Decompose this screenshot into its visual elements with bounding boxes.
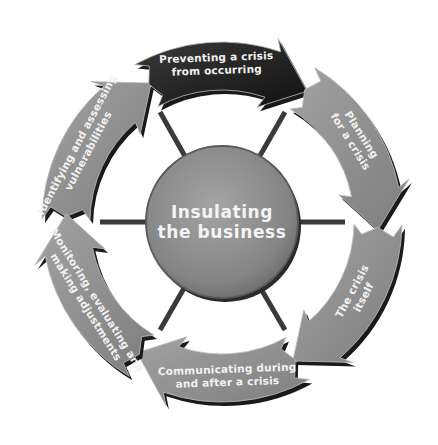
cycle-diagram-svg: Identifying and assessingvulnerabilities… bbox=[0, 0, 438, 445]
stage-arrow-monitor: Monitoring, evaluating andmaking adjustm… bbox=[35, 214, 157, 380]
stage-arrow-prevent: Preventing a crisisfrom occurring bbox=[135, 38, 310, 111]
center-label-line2: the business bbox=[158, 222, 287, 242]
stage-arrow-crisis: The crisisitself bbox=[293, 224, 405, 366]
cycle-diagram: Identifying and assessingvulnerabilities… bbox=[0, 0, 438, 445]
stage-arrow-communicate: Communicating duringand after a crisis bbox=[137, 337, 312, 410]
center-label-line1: Insulating bbox=[171, 202, 273, 222]
stage-arrow-plan: Planningfor a crisis bbox=[290, 68, 412, 235]
stage-arrow-identify: Identifying and assessingvulnerabilities bbox=[34, 73, 154, 224]
center-hub: Insulating the business bbox=[146, 146, 301, 302]
